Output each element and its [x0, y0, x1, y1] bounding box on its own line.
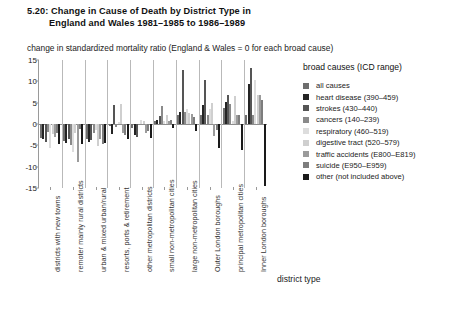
figure-subtitle: change in standardized mortality ratio (… — [27, 43, 333, 53]
legend-item[interactable]: cancers (140–239) — [303, 114, 455, 125]
y-tick-mark — [35, 145, 39, 146]
x-tick-label: resorts, ports & retirement — [122, 188, 131, 272]
bar-group — [85, 60, 108, 188]
legend-swatch — [303, 94, 309, 100]
y-tick-mark — [35, 81, 39, 82]
y-tick-mark — [35, 166, 39, 167]
legend-rows: all causesheart disease (390–459)strokes… — [303, 80, 455, 183]
bar-group — [153, 60, 176, 188]
bar-group — [39, 60, 62, 188]
legend-item[interactable]: other (not included above) — [303, 171, 455, 182]
x-tick-mark — [96, 187, 97, 190]
x-tick-label-text: districts with new towns — [53, 196, 62, 272]
x-tick-mark — [256, 187, 257, 190]
legend-swatch — [303, 140, 309, 146]
x-tick-label: remoter mainly rural districts — [76, 180, 85, 272]
bar — [238, 115, 240, 124]
figure-title-line-2: England and Wales 1981–1985 to 1986–1989 — [27, 18, 327, 30]
y-tick-mark — [35, 102, 39, 103]
x-tick-label: other metropolitan districts — [145, 186, 154, 272]
figure-root: 5.20: Change in Cause of Death by Distri… — [0, 0, 457, 309]
legend: broad causes (ICD range) all causesheart… — [303, 62, 455, 183]
legend-item-label: suicide (E950–E959) — [316, 160, 387, 171]
legend-item-label: cancers (140–239) — [316, 114, 379, 125]
legend-item[interactable]: suicide (E950–E959) — [303, 160, 455, 171]
y-tick-mark — [35, 188, 39, 189]
legend-item-label: respiratory (460–519) — [316, 126, 389, 137]
bar — [136, 124, 138, 137]
bar-group — [199, 60, 222, 188]
figure-title-line-1: 5.20: Change in Cause of Death by Distri… — [27, 6, 327, 18]
bar — [193, 117, 195, 124]
x-tick-label-text: Inner London boroughs — [259, 197, 268, 272]
x-tick-label-text: other metropolitan districts — [145, 186, 154, 272]
y-tick-mark — [35, 60, 39, 61]
x-tick-label: small non-metropolitan cities — [167, 179, 176, 272]
x-tick-mark — [164, 187, 165, 190]
figure-title: 5.20: Change in Cause of Death by Distri… — [27, 6, 327, 29]
x-tick-label: large non-metropolitan cities — [190, 180, 199, 272]
x-axis-labels: districts with new townsremoter mainly r… — [39, 190, 267, 274]
legend-swatch — [303, 128, 309, 134]
bar — [211, 103, 213, 124]
bar — [261, 100, 263, 124]
legend-item[interactable]: all causes — [303, 80, 455, 91]
bar — [120, 104, 122, 124]
legend-swatch — [303, 117, 309, 123]
bar-group — [107, 60, 130, 188]
bars-panel — [39, 60, 267, 188]
legend-item-label: heart disease (390–459) — [316, 92, 398, 103]
bar — [138, 124, 140, 125]
legend-item-label: all causes — [316, 80, 350, 91]
bar-group — [62, 60, 85, 188]
x-tick-label-text: large non-metropolitan cities — [190, 180, 199, 272]
x-tick-label-text: Outer London boroughs — [213, 195, 222, 272]
legend-item-label: traffic accidents (E800–E819) — [316, 149, 415, 160]
bar-group — [221, 60, 244, 188]
bar — [111, 124, 113, 134]
legend-swatch — [303, 174, 309, 180]
plot-area: 151050-5-10-15 — [17, 60, 267, 188]
bar-group — [130, 60, 153, 188]
x-tick-label-text: urban & mixed urban/rural — [99, 188, 108, 272]
y-axis-labels: 151050-5-10-15 — [17, 60, 37, 188]
bar — [218, 124, 220, 148]
bar-group — [176, 60, 199, 188]
x-tick-mark — [210, 187, 211, 190]
x-tick-mark — [233, 187, 234, 190]
legend-item[interactable]: traffic accidents (E800–E819) — [303, 148, 455, 159]
bar — [195, 124, 197, 131]
legend-item[interactable]: digestive tract (520–579) — [303, 137, 455, 148]
x-tick-mark — [142, 187, 143, 190]
bar — [264, 124, 266, 186]
legend-item[interactable]: strokes (430–440) — [303, 103, 455, 114]
x-tick-label: Inner London boroughs — [259, 197, 268, 272]
legend-title: broad causes (ICD range) — [303, 62, 455, 72]
bar — [241, 124, 243, 150]
bar — [113, 105, 115, 124]
legend-item[interactable]: respiratory (460–519) — [303, 126, 455, 137]
x-tick-label: Outer London boroughs — [213, 195, 222, 272]
x-tick-label-text: principal metropolitan cities — [236, 184, 245, 272]
bar — [77, 124, 79, 162]
x-tick-label-text: small non-metropolitan cities — [167, 179, 176, 272]
x-tick-label: principal metropolitan cities — [236, 184, 245, 272]
x-axis-title: district type — [277, 274, 320, 284]
legend-item-label: digestive tract (520–579) — [316, 137, 400, 148]
bar — [127, 124, 129, 139]
bar — [115, 124, 117, 127]
legend-item[interactable]: heart disease (390–459) — [303, 91, 455, 102]
y-tick-mark — [35, 124, 39, 125]
x-tick-label: urban & mixed urban/rural — [99, 188, 108, 272]
legend-item-label: other (not included above) — [316, 171, 404, 182]
x-tick-mark — [50, 187, 51, 190]
x-tick-mark — [187, 187, 188, 190]
legend-swatch — [303, 105, 309, 111]
x-tick-label: districts with new towns — [53, 196, 62, 272]
legend-item-label: strokes (430–440) — [316, 103, 377, 114]
x-tick-mark — [119, 187, 120, 190]
x-tick-mark — [73, 187, 74, 190]
bar — [81, 124, 83, 144]
x-tick-label-text: remoter mainly rural districts — [76, 180, 85, 272]
legend-swatch — [303, 151, 309, 157]
